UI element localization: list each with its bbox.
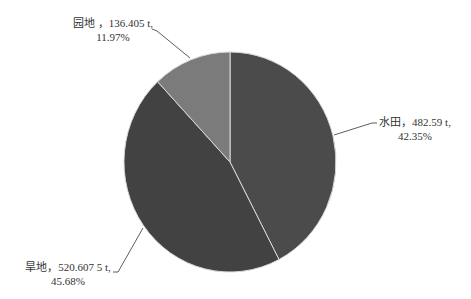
- data-label-dryland-line2: 45.68%: [22, 274, 114, 288]
- pie-chart: 水田，482.59 t, 42.35% 旱地，520.607 5 t, 45.6…: [0, 0, 471, 299]
- data-label-garden: 园地 ，136.405 t, 11.97%: [72, 16, 154, 44]
- leader-line-dryland: [113, 228, 143, 272]
- leader-line-paddy: [334, 123, 377, 135]
- data-label-dryland: 旱地，520.607 5 t, 45.68%: [22, 260, 114, 288]
- data-label-garden-line1: 园地 ，136.405 t,: [72, 16, 154, 30]
- data-label-paddy-line1: 水田，482.59 t,: [374, 115, 456, 129]
- data-label-paddy: 水田，482.59 t, 42.35%: [374, 115, 456, 143]
- data-label-paddy-line2: 42.35%: [374, 129, 456, 143]
- pie-slices: [124, 52, 336, 272]
- data-label-garden-line2: 11.97%: [72, 30, 154, 44]
- pie-chart-graphic: [0, 0, 471, 299]
- leader-line-garden: [152, 29, 190, 58]
- data-label-dryland-line1: 旱地，520.607 5 t,: [22, 260, 114, 274]
